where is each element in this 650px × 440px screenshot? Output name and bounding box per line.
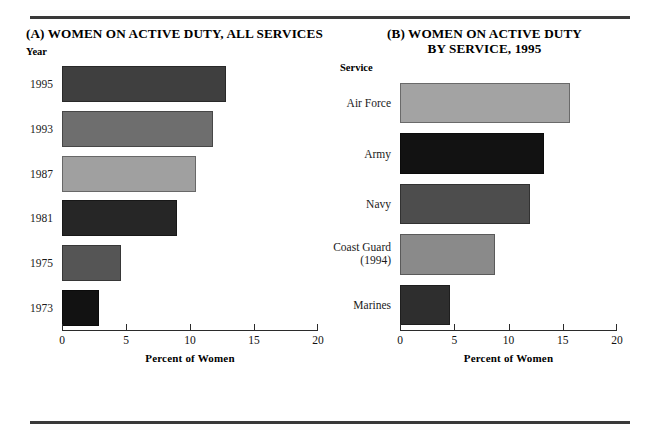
category-label: 1987 — [30, 167, 53, 180]
category-label: Marines — [353, 298, 391, 311]
axis-tick — [509, 324, 510, 330]
bar — [62, 245, 121, 281]
figure-container: (A) WOMEN ON ACTIVE DUTY, ALL SERVICES Y… — [0, 0, 650, 440]
top-rule — [30, 16, 630, 19]
value-axis-line — [62, 330, 318, 331]
bar — [62, 66, 226, 102]
value-axis-title: Percent of Women — [400, 352, 617, 364]
axis-tick-label: 0 — [59, 334, 65, 346]
axis-tick — [254, 324, 255, 330]
axis-tick-label: 5 — [451, 334, 457, 346]
axis-tick — [616, 324, 617, 330]
axis-tick — [126, 324, 127, 330]
bar — [400, 83, 570, 123]
value-axis-line — [400, 330, 617, 331]
bottom-rule — [30, 421, 630, 424]
bar — [400, 184, 530, 224]
axis-tick-label: 0 — [397, 334, 403, 346]
chart-panel-b: (B) WOMEN ON ACTIVE DUTY BY SERVICE, 199… — [332, 26, 637, 416]
panel-b-category-axis-name: Service — [340, 62, 373, 73]
bar-row: Coast Guard(1994) — [400, 234, 617, 274]
bar — [62, 111, 213, 147]
axis-tick-label: 10 — [503, 334, 515, 346]
bar-row: 1975 — [62, 245, 318, 281]
bar-row: 1981 — [62, 200, 318, 236]
bar-row: 1987 — [62, 156, 318, 192]
category-label: 1975 — [30, 256, 53, 269]
category-label: 1993 — [30, 122, 53, 135]
category-label: Air Force — [347, 97, 391, 110]
axis-tick — [563, 324, 564, 330]
axis-tick-label: 15 — [248, 334, 260, 346]
panel-b-title: (B) WOMEN ON ACTIVE DUTY BY SERVICE, 199… — [332, 26, 637, 56]
bar-row: 1973 — [62, 290, 318, 326]
axis-tick — [62, 324, 63, 330]
bar — [400, 234, 495, 274]
bar-row: 1995 — [62, 66, 318, 102]
axis-tick-label: 20 — [312, 334, 324, 346]
bar-row: Army — [400, 133, 617, 173]
panel-b-plot-area: Air ForceArmyNavyCoast Guard(1994)Marine… — [400, 78, 617, 374]
bar — [62, 200, 177, 236]
panel-a-plot-area: 19951993198719811975197305101520Percent … — [62, 62, 318, 374]
axis-tick — [454, 324, 455, 330]
panel-a-title: (A) WOMEN ON ACTIVE DUTY, ALL SERVICES — [26, 26, 323, 41]
axis-tick — [317, 324, 318, 330]
category-label: Army — [364, 147, 391, 160]
category-label: 1995 — [30, 78, 53, 91]
bar-row: 1993 — [62, 111, 318, 147]
chart-panel-a: (A) WOMEN ON ACTIVE DUTY, ALL SERVICES Y… — [18, 26, 328, 416]
panel-a-category-axis-name: Year — [26, 46, 47, 57]
bar-row: Marines — [400, 285, 617, 325]
bar-row: Navy — [400, 184, 617, 224]
category-label: 1981 — [30, 212, 53, 225]
bar — [400, 133, 544, 173]
value-axis-title: Percent of Women — [62, 352, 318, 364]
bar — [62, 290, 99, 326]
panel-b-title-line1: (B) WOMEN ON ACTIVE DUTY — [387, 26, 582, 41]
category-label: 1973 — [30, 301, 53, 314]
axis-tick — [400, 324, 401, 330]
bar-row: Air Force — [400, 83, 617, 123]
axis-tick-label: 10 — [184, 334, 196, 346]
axis-tick-label: 5 — [123, 334, 129, 346]
axis-tick — [190, 324, 191, 330]
axis-tick-label: 15 — [557, 334, 569, 346]
bar — [62, 156, 196, 192]
category-label: Navy — [366, 197, 391, 210]
axis-tick-label: 20 — [611, 334, 623, 346]
bar — [400, 285, 450, 325]
category-label: Coast Guard(1994) — [333, 241, 391, 267]
panel-b-title-line2: BY SERVICE, 1995 — [332, 41, 637, 56]
